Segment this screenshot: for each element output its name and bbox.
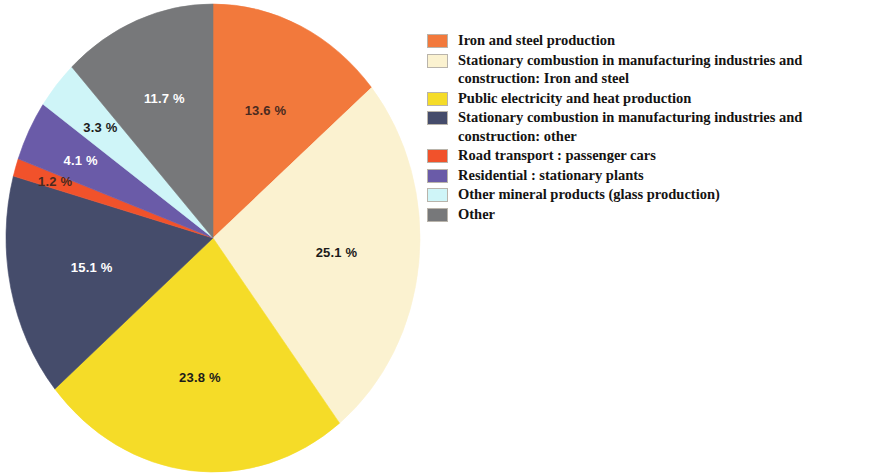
pie-chart-figure: 13.6 %25.1 %23.8 %15.1 %1.2 %4.1 %3.3 %1… — [0, 0, 873, 475]
legend-color-swatch — [427, 92, 448, 106]
legend-item-label: Other mineral products (glass production… — [458, 185, 720, 204]
pie-slice-value-label: 25.1 % — [316, 245, 358, 260]
legend-color-swatch — [427, 208, 448, 222]
legend-color-swatch — [427, 188, 448, 202]
pie-svg: 13.6 %25.1 %23.8 %15.1 %1.2 %4.1 %3.3 %1… — [3, 2, 423, 474]
pie-slice-group — [6, 4, 420, 472]
legend-item: Road transport : passenger cars — [427, 146, 871, 165]
legend-item: Public electricity and heat production — [427, 89, 871, 108]
legend-item: Stationary combustion in manufacturing i… — [427, 108, 871, 145]
legend-item-label: Other — [458, 205, 495, 224]
legend-item: Residential : stationary plants — [427, 166, 871, 185]
pie-slice-value-label: 3.3 % — [83, 120, 117, 135]
chart-legend: Iron and steel productionStationary comb… — [427, 31, 871, 224]
legend-item-label: Road transport : passenger cars — [458, 146, 656, 165]
legend-item-label: Public electricity and heat production — [458, 89, 691, 108]
legend-item-label: Stationary combustion in manufacturing i… — [458, 108, 856, 145]
pie-slice-value-label: 11.7 % — [144, 91, 185, 106]
pie-slice-value-label: 15.1 % — [71, 260, 113, 275]
pie-chart-plot: 13.6 %25.1 %23.8 %15.1 %1.2 %4.1 %3.3 %1… — [3, 2, 423, 474]
legend-item-label: Iron and steel production — [458, 31, 615, 50]
legend-color-swatch — [427, 111, 448, 125]
pie-slice-value-label: 4.1 % — [63, 153, 97, 168]
legend-color-swatch — [427, 149, 448, 163]
pie-slice-value-label: 1.2 % — [38, 174, 72, 189]
pie-slice-value-label: 13.6 % — [245, 103, 287, 118]
legend-color-swatch — [427, 54, 448, 68]
legend-item-label: Stationary combustion in manufacturing i… — [458, 51, 856, 88]
legend-item: Other mineral products (glass production… — [427, 185, 871, 204]
legend-color-swatch — [427, 169, 448, 183]
pie-slice-value-label: 23.8 % — [179, 370, 221, 385]
legend-item: Iron and steel production — [427, 31, 871, 50]
legend-item: Other — [427, 205, 871, 224]
legend-item-label: Residential : stationary plants — [458, 166, 644, 185]
legend-item: Stationary combustion in manufacturing i… — [427, 51, 871, 88]
legend-color-swatch — [427, 34, 448, 48]
